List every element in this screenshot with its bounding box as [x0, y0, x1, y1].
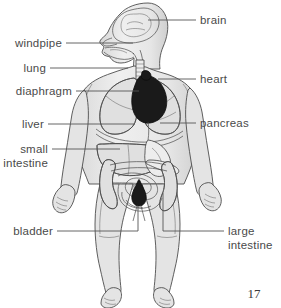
anatomy-diagram: brain windpipe lung heart diaphragm live… [0, 0, 281, 308]
hand-left [53, 185, 75, 213]
heart-vessel-top [141, 71, 151, 81]
label-bladder: bladder [13, 225, 53, 237]
foot-right [154, 288, 175, 308]
label-windpipe: windpipe [14, 37, 62, 49]
foot-left [101, 288, 122, 308]
label-liver: liver [22, 118, 44, 130]
label-small-intestine-line1: small [20, 143, 48, 155]
label-pancreas: pancreas [200, 117, 249, 129]
head-profile [100, 3, 168, 69]
label-large-intestine-line1: large [228, 225, 255, 237]
arm-right [186, 88, 214, 197]
label-brain: brain [200, 14, 227, 26]
label-small-intestine-line2: intestine [3, 157, 48, 169]
label-lung: lung [23, 62, 46, 74]
label-heart: heart [200, 73, 228, 85]
page-number: 17 [248, 286, 262, 301]
label-diaphragm: diaphragm [16, 85, 72, 97]
label-large-intestine-line2: intestine [228, 239, 273, 251]
arm-left [61, 90, 89, 198]
